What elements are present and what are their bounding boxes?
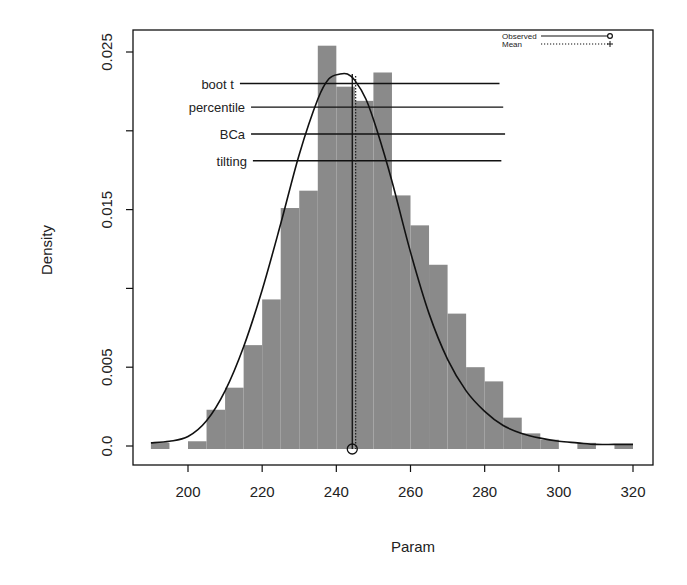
x-tick-label: 240 [324,483,349,500]
x-tick-label: 300 [546,483,571,500]
histogram-density-chart: boot tpercentileBCatilting 2002202402602… [0,0,687,585]
histogram-bar [485,381,504,449]
histogram-bar [244,345,263,449]
ci-label: tilting [217,154,247,169]
y-axis-title: Density [38,224,55,275]
ci-label: BCa [220,127,246,142]
histogram-bar [318,46,337,449]
x-tick-label: 220 [250,483,275,500]
ci-label: percentile [189,100,245,115]
x-tick-label: 200 [175,483,200,500]
histogram-bar [262,299,281,449]
histogram-bar [503,418,522,449]
y-tick-label: 0.015 [98,191,115,229]
ci-label: boot t [201,77,234,92]
x-tick-label: 260 [398,483,423,500]
histogram-bar [411,225,430,449]
x-axis: 200220240260280300320 [175,465,645,500]
histogram-bar [299,191,318,449]
y-axis: 0.00.0050.0150.025 [98,33,133,456]
y-tick-label: 0.005 [98,348,115,386]
histogram-bar [392,195,411,449]
x-tick-label: 320 [620,483,645,500]
histogram-bar [355,101,374,449]
histogram-bar [429,265,448,449]
legend-circle-icon [608,34,613,39]
histogram-bar [188,441,207,449]
histogram-bar [207,410,226,449]
histogram-bar [448,314,467,449]
x-axis-title: Param [391,538,435,555]
histogram-bar [225,388,244,449]
y-tick-label: 0.025 [98,33,115,71]
legend: ObservedMean [502,32,613,49]
y-tick-label: 0.0 [98,436,115,457]
x-tick-label: 280 [472,483,497,500]
histogram-bar [151,443,170,449]
histogram-bar [281,208,300,449]
legend-label: Mean [502,40,522,49]
legend-plus-icon [607,41,613,47]
